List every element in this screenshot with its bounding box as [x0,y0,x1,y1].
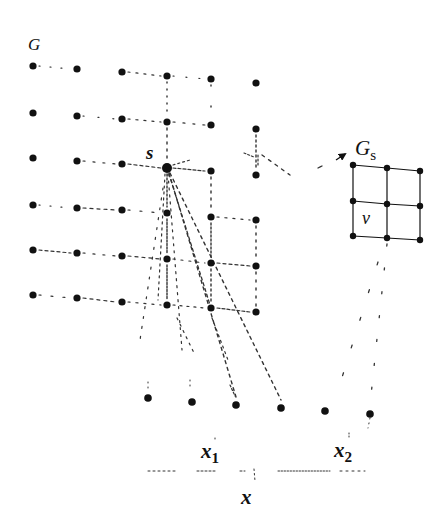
graph-node [29,62,36,69]
graph-node [73,204,80,211]
diagram-canvas [0,0,442,527]
grid-horizontal-edge [83,298,116,302]
gs-node [350,233,356,239]
x-axis [148,433,365,481]
grid-horizontal-edge [83,253,116,256]
grid-horizontal-edge [173,122,205,125]
label-graph-g-text: G [28,35,40,54]
fan-edge [212,318,228,360]
gs-node [350,198,356,204]
label-x1: x1 [201,441,219,466]
gs-node [417,237,423,243]
graph-node [29,291,36,298]
graph-node [207,75,214,82]
graph-node [73,157,80,164]
gs-node [417,168,423,174]
bottom-row-node [366,410,374,418]
gs-projection-edge [370,244,387,405]
gs-projection-edge [368,418,370,428]
label-vertex-v: v [362,209,370,227]
grid-horizontal-edge [173,76,205,79]
label-x-text: x [241,485,252,509]
label-subgraph-gs-text: G [355,136,370,160]
graph-node [118,298,125,305]
grid-horizontal-edge [173,259,205,263]
bottom-row-node [277,404,285,412]
graph-node [29,154,36,161]
graph-g-dashed-edges [39,66,256,312]
connector-edge [262,155,290,175]
fan-edge [168,174,182,350]
gs-node [384,165,390,171]
fan-edge-to-gs [173,160,190,165]
graph-node [73,294,80,301]
graph-node [252,308,259,315]
label-source-s-text: s [146,142,153,163]
bottom-row-node [188,398,196,406]
bottom-row-node [232,401,240,409]
grid-horizontal-edge [128,164,161,168]
graph-node [73,249,80,256]
label-x2-subscript: 2 [345,449,353,465]
label-x2: x2 [334,440,352,465]
label-x1-subscript: 1 [212,450,220,466]
bottom-row-node [144,394,152,402]
grid-horizontal-edge [173,305,205,308]
label-subgraph-gs-subscript: s [370,147,376,163]
graph-node [73,65,80,72]
grid-horizontal-edge [128,72,161,76]
graph-node [207,121,214,128]
graph-node [118,68,125,75]
grid-horizontal-edge [83,116,116,119]
gs-projection-edge [335,262,378,400]
graph-node [252,216,259,223]
gs-node [384,201,390,207]
graph-node [29,201,36,208]
grid-horizontal-edge [39,66,71,69]
graph-node [252,262,259,269]
graph-node [163,301,170,308]
graph-node [207,259,214,266]
gs-edge [387,204,420,206]
label-x: x [241,487,252,508]
grid-horizontal-edge [128,119,161,122]
graph-node [252,171,259,178]
graph-node [118,160,125,167]
graph-node [207,304,214,311]
arrow-to-gs [336,154,345,160]
label-graph-g: G [28,36,40,53]
connector-edge [244,153,254,157]
fan-edge [158,174,165,300]
grid-horizontal-edge [39,295,71,298]
bottom-row-nodes [144,394,374,418]
grid-horizontal-edge [217,308,250,312]
gs-edge [353,236,387,238]
grid-horizontal-edge [39,250,71,253]
graph-node [163,118,170,125]
source-node-s [162,163,172,173]
label-vertex-v-text: v [362,208,370,228]
gs-node [417,203,423,209]
graph-node [207,213,214,220]
connector-edges [244,153,387,428]
fan-edge-to-bottom [170,173,281,400]
graph-g-nodes [29,62,259,315]
fan-edge [177,318,195,355]
grid-horizontal-edge [39,205,71,208]
grid-horizontal-edge [83,161,116,164]
axis-tick [254,469,255,481]
graph-node [207,167,214,174]
connector-edge [318,166,322,168]
gs-node [384,235,390,241]
graph-node [252,79,259,86]
fan-edge-to-bottom [169,173,236,397]
grid-horizontal-edge [128,302,161,305]
grid-horizontal-edge [217,217,250,220]
graph-node [29,109,36,116]
graph-node [118,206,125,213]
grid-horizontal-edge [128,256,161,259]
label-subgraph-gs: Gs [355,138,376,163]
gs-edge [353,165,387,168]
grid-horizontal-edge [128,210,161,213]
label-x1-text: x [201,439,212,463]
